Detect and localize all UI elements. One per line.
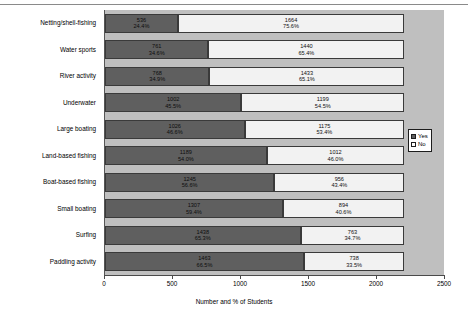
bar-percent-yes: 59.4% — [186, 209, 202, 216]
bar-segment-no[interactable]: 144065.4% — [208, 40, 404, 59]
bar-row: 53624.4%166475.6% — [105, 14, 444, 33]
bar-row: 124556.6%95643.4% — [105, 173, 444, 192]
x-axis-tick — [444, 275, 445, 279]
top-divider-rule — [0, 4, 468, 5]
bar-row: 143865.3%76334.7% — [105, 226, 444, 245]
legend-label-no: No — [418, 141, 426, 148]
bar-percent-yes: 34.9% — [149, 76, 165, 83]
bar-segment-no[interactable]: 143365.1% — [209, 67, 404, 86]
bar-segment-no[interactable]: 89440.6% — [283, 199, 405, 218]
category-axis-labels: Netting/shell-fishingWater sportsRiver a… — [0, 10, 100, 275]
bar-value-yes: 1245 — [183, 176, 195, 183]
bar-value-yes: 761 — [152, 43, 161, 50]
bar-segment-yes[interactable]: 102646.6% — [105, 120, 245, 139]
bar-value-no: 956 — [335, 176, 344, 183]
bar-segment-no[interactable]: 95643.4% — [274, 173, 404, 192]
legend-swatch-no-icon — [411, 142, 416, 147]
bar-percent-no: 75.6% — [283, 23, 299, 30]
plot-area: 53624.4%166475.6%76134.6%144065.4%76834.… — [104, 10, 444, 275]
category-label: Small boating — [57, 205, 96, 213]
bar-row: 102646.6%117553.4% — [105, 120, 444, 139]
x-axis-line: 05001000150020002500 — [104, 275, 444, 276]
bar-row: 146366.5%73833.5% — [105, 252, 444, 271]
bar-segment-yes[interactable]: 130759.4% — [105, 199, 283, 218]
bar-segment-yes[interactable]: 146366.5% — [105, 252, 304, 271]
legend-item-no[interactable]: No — [411, 141, 428, 148]
x-axis-tick — [172, 275, 173, 279]
bar-percent-no: 53.4% — [316, 129, 332, 136]
bar-value-yes: 1438 — [197, 229, 209, 236]
bar-segment-no[interactable]: 117553.4% — [245, 120, 405, 139]
category-label: Large boating — [57, 125, 96, 133]
bar-segment-no[interactable]: 119954.5% — [241, 93, 404, 112]
bar-row: 100245.5%119954.5% — [105, 93, 444, 112]
x-axis-tick-label: 500 — [167, 280, 178, 287]
legend-swatch-yes-icon — [411, 134, 416, 139]
bar-value-yes: 768 — [153, 70, 162, 77]
category-label: Netting/shell-fishing — [40, 19, 96, 27]
bar-percent-yes: 66.5% — [197, 262, 213, 269]
bar-percent-yes: 54.0% — [178, 156, 194, 163]
stacked-bar-chart: Netting/shell-fishingWater sportsRiver a… — [0, 0, 468, 320]
bar-value-no: 1433 — [301, 70, 313, 77]
legend-label-yes: Yes — [418, 133, 428, 140]
x-axis-tick-label: 2000 — [369, 280, 383, 287]
category-label: Underwater — [63, 99, 96, 107]
x-axis-tick-label: 1500 — [301, 280, 315, 287]
bar-percent-no: 40.6% — [336, 209, 352, 216]
bar-segment-yes[interactable]: 143865.3% — [105, 226, 301, 245]
bar-value-no: 763 — [348, 229, 357, 236]
x-axis-tick-label: 2500 — [437, 280, 451, 287]
bar-row: 130759.4%89440.6% — [105, 199, 444, 218]
bar-value-yes: 1002 — [167, 96, 179, 103]
x-axis-tick — [376, 275, 377, 279]
bar-percent-no: 43.4% — [331, 182, 347, 189]
bar-percent-no: 33.5% — [346, 262, 362, 269]
bar-value-yes: 536 — [137, 17, 146, 24]
bar-percent-no: 65.1% — [299, 76, 315, 83]
bar-value-yes: 1463 — [198, 255, 210, 262]
x-axis-tick-label: 0 — [102, 280, 106, 287]
x-axis-tick — [308, 275, 309, 279]
category-label: Paddling activity — [50, 258, 96, 266]
bar-percent-no: 65.4% — [298, 50, 314, 57]
bar-percent-no: 46.0% — [328, 156, 344, 163]
category-label: Boat-based fishing — [43, 178, 96, 186]
category-label: Land-based fishing — [42, 152, 96, 160]
bar-value-no: 1199 — [317, 96, 329, 103]
bar-segment-no[interactable]: 76334.7% — [301, 226, 405, 245]
bar-segment-yes[interactable]: 76134.6% — [105, 40, 208, 59]
bar-segment-no[interactable]: 73833.5% — [304, 252, 404, 271]
bar-segment-yes[interactable]: 76834.9% — [105, 67, 209, 86]
x-axis-tick-label: 1000 — [233, 280, 247, 287]
bar-value-yes: 1026 — [169, 123, 181, 130]
legend-item-yes[interactable]: Yes — [411, 133, 428, 140]
category-label: Water sports — [60, 46, 96, 54]
bar-percent-yes: 46.6% — [167, 129, 183, 136]
category-label: Surfing — [76, 231, 96, 239]
x-axis-tick — [104, 275, 105, 279]
bar-value-no: 738 — [349, 255, 358, 262]
bar-row: 76134.6%144065.4% — [105, 40, 444, 59]
bar-segment-yes[interactable]: 53624.4% — [105, 14, 178, 33]
bar-segment-no[interactable]: 101246.0% — [267, 146, 405, 165]
bar-value-no: 1175 — [318, 123, 330, 130]
bar-segment-no[interactable]: 166475.6% — [178, 14, 404, 33]
bar-value-no: 1440 — [300, 43, 312, 50]
bar-segment-yes[interactable]: 118954.0% — [105, 146, 267, 165]
bar-segment-yes[interactable]: 100245.5% — [105, 93, 241, 112]
bar-percent-no: 54.5% — [315, 103, 331, 110]
bar-percent-yes: 24.4% — [134, 23, 150, 30]
bar-percent-yes: 56.6% — [182, 182, 198, 189]
legend: Yes No — [408, 129, 432, 152]
bar-value-yes: 1307 — [188, 202, 200, 209]
bar-percent-yes: 34.6% — [149, 50, 165, 57]
bar-rows: 53624.4%166475.6%76134.6%144065.4%76834.… — [105, 10, 444, 275]
bar-percent-yes: 65.3% — [195, 235, 211, 242]
bar-value-no: 1012 — [329, 149, 341, 156]
bar-value-yes: 1189 — [180, 149, 192, 156]
category-label: River activity — [60, 72, 96, 80]
x-axis-tick — [240, 275, 241, 279]
bar-percent-no: 34.7% — [345, 235, 361, 242]
bar-segment-yes[interactable]: 124556.6% — [105, 173, 274, 192]
